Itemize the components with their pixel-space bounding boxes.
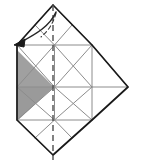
origami-crease-pattern	[0, 0, 141, 162]
origami-diagram-figure: Origami crease pattern step with fold ar…	[0, 0, 141, 162]
fold-arrow-head-icon	[14, 39, 25, 47]
